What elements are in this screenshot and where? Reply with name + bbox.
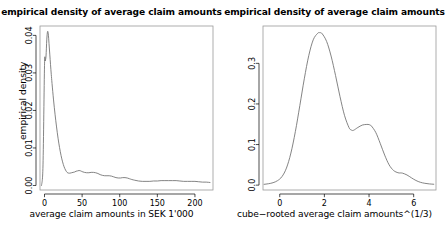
- svg-text:50: 50: [77, 199, 87, 208]
- svg-text:0.3: 0.3: [249, 57, 258, 70]
- panel-left-plot-area: 0501001502000.000.010.020.030.04: [0, 0, 223, 230]
- svg-text:0.04: 0.04: [26, 26, 35, 44]
- svg-text:0.03: 0.03: [25, 64, 34, 82]
- panel-right-plot-area: 02460.00.10.20.3: [223, 0, 446, 230]
- svg-text:2: 2: [322, 199, 327, 208]
- svg-text:4: 4: [366, 199, 371, 208]
- svg-text:0.01: 0.01: [26, 139, 35, 157]
- density-plot-right: empirical density of average claim amoun…: [223, 0, 446, 230]
- svg-text:0: 0: [42, 199, 47, 208]
- svg-text:150: 150: [150, 199, 165, 208]
- svg-text:0.1: 0.1: [249, 138, 258, 151]
- svg-text:0.2: 0.2: [249, 98, 258, 111]
- svg-text:200: 200: [187, 199, 202, 208]
- svg-text:100: 100: [112, 199, 127, 208]
- figure-container: empirical density of average claim amoun…: [0, 0, 446, 230]
- svg-text:0.0: 0.0: [249, 179, 258, 192]
- density-plot-left: empirical density of average claim amoun…: [0, 0, 223, 230]
- svg-text:0: 0: [277, 199, 282, 208]
- svg-text:6: 6: [411, 199, 416, 208]
- svg-text:0.00: 0.00: [26, 177, 35, 195]
- svg-text:0.02: 0.02: [26, 102, 35, 120]
